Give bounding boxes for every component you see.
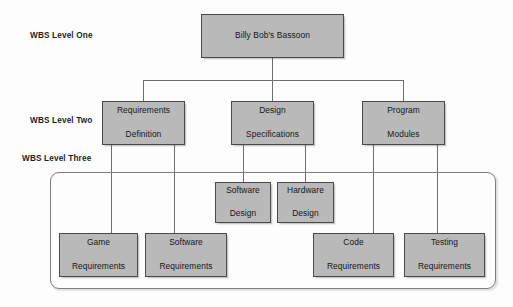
node-code-requirements[interactable]: CodeRequirements bbox=[313, 233, 394, 277]
node-label-line2: Requirements bbox=[70, 261, 127, 273]
node-label: Billy Bob's Bassoon bbox=[233, 30, 312, 42]
connector-bus-to-program bbox=[403, 80, 404, 102]
node-billy-bobs-bassoon[interactable]: Billy Bob's Bassoon bbox=[201, 14, 344, 58]
node-label-line1: Hardware bbox=[285, 185, 326, 197]
node-label-line2: Requirements bbox=[157, 261, 214, 273]
node-program-modules[interactable]: ProgramModules bbox=[362, 101, 445, 145]
node-requirements-definition[interactable]: RequirementsDefinition bbox=[102, 101, 185, 145]
node-label-line2: Requirements bbox=[416, 261, 473, 273]
node-label-line1: Design bbox=[244, 105, 301, 117]
node-label: RequirementsDefinition bbox=[113, 105, 174, 141]
node-label: DesignSpecifications bbox=[242, 105, 303, 141]
node-label-line2: Modules bbox=[385, 129, 422, 141]
wbs-diagram: WBS Level One WBS Level Two WBS Level Th… bbox=[0, 0, 513, 307]
connector-root-stem bbox=[272, 58, 273, 80]
node-label-line1: Program bbox=[385, 105, 422, 117]
level-label-one: WBS Level One bbox=[30, 31, 93, 40]
connector-level-two-bus bbox=[143, 80, 404, 81]
node-label-line1: Code bbox=[325, 237, 382, 249]
node-label: TestingRequirements bbox=[414, 237, 475, 273]
node-software-requirements[interactable]: SoftwareRequirements bbox=[145, 233, 227, 277]
node-label: SoftwareRequirements bbox=[155, 237, 216, 273]
node-label: CodeRequirements bbox=[323, 237, 384, 273]
node-design-specifications[interactable]: DesignSpecifications bbox=[231, 101, 314, 145]
node-label: ProgramModules bbox=[383, 105, 424, 141]
node-testing-requirements[interactable]: TestingRequirements bbox=[404, 233, 485, 277]
node-label-line2: Requirements bbox=[325, 261, 382, 273]
connector-bus-to-design bbox=[272, 80, 273, 102]
node-label: GameRequirements bbox=[68, 237, 129, 273]
level-label-three: WBS Level Three bbox=[22, 154, 91, 163]
node-label: HardwareDesign bbox=[283, 185, 328, 221]
node-label-line2: Specifications bbox=[244, 129, 301, 141]
node-label-line1: Testing bbox=[416, 237, 473, 249]
level-label-two: WBS Level Two bbox=[30, 116, 92, 125]
node-label-line1: Requirements bbox=[115, 105, 172, 117]
connector-bus-to-requirements bbox=[143, 80, 144, 102]
node-label-line1: Software bbox=[224, 185, 262, 197]
node-label-line2: Design bbox=[285, 208, 326, 220]
node-game-requirements[interactable]: GameRequirements bbox=[59, 233, 138, 277]
node-software-design[interactable]: SoftwareDesign bbox=[215, 182, 271, 223]
node-label-line2: Definition bbox=[115, 129, 172, 141]
node-hardware-design[interactable]: HardwareDesign bbox=[277, 182, 334, 223]
node-label-line1: Game bbox=[70, 237, 127, 249]
node-label: SoftwareDesign bbox=[222, 185, 264, 221]
node-label-line1: Software bbox=[157, 237, 214, 249]
node-label-line2: Design bbox=[224, 208, 262, 220]
